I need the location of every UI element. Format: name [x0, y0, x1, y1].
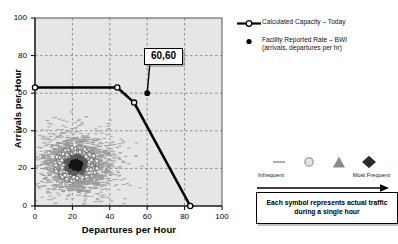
x-tick-label-20: 20 — [62, 212, 82, 221]
cloud-point — [54, 163, 58, 167]
chart-legend: Calculated Capacity – Today Facility Rep… — [236, 18, 390, 61]
x-tick-label-80: 80 — [175, 212, 195, 221]
cloud-point — [61, 152, 65, 156]
frequency-note-line2: during a single hour — [294, 208, 359, 215]
legend-item-facility-reported-rate: Facility Reported Rate – BWI (arrivals, … — [236, 36, 390, 53]
legend-sublabel-facility-reported-rate: (arrivals, departures per hr) — [262, 44, 347, 52]
legend-line-open-circle-icon — [236, 18, 262, 28]
x-tick-label-0: 0 — [25, 212, 45, 221]
frequency-symbol-row — [256, 152, 392, 172]
legend-filled-dot-icon — [236, 36, 262, 46]
frequency-label-infrequent: Infrequent — [258, 172, 284, 178]
cloud-point — [65, 177, 69, 181]
frequency-note-box: Each symbol represents actual traffic du… — [256, 192, 398, 224]
cloud-point — [83, 147, 87, 151]
cloud-point — [81, 176, 85, 180]
cloud-point — [88, 171, 92, 175]
cloud-point — [70, 146, 74, 150]
cloud-point — [78, 150, 82, 154]
y-tick-label-40: 40 — [7, 126, 27, 135]
x-tick-label-60: 60 — [137, 212, 157, 221]
frequency-scale-labels: Infrequent Most Frequent — [256, 172, 392, 178]
capacity-point-marker-0 — [32, 85, 37, 90]
cloud-point — [55, 155, 59, 159]
legend-label-calculated-capacity: Calculated Capacity – Today — [262, 18, 345, 26]
y-axis-title: Arrivals per Hour — [12, 61, 23, 157]
x-tick-label-40: 40 — [100, 212, 120, 221]
capacity-point-marker-3 — [188, 203, 193, 208]
cloud-point — [60, 159, 64, 163]
capacity-point-marker-1 — [115, 85, 120, 90]
cloud-point — [65, 153, 69, 157]
frequency-label-most-frequent: Most Frequent — [353, 172, 390, 178]
cloud-point — [95, 159, 99, 163]
cloud-point — [84, 155, 88, 159]
triangle-symbol-icon — [331, 155, 347, 169]
cloud-point — [60, 166, 64, 170]
y-tick-label-80: 80 — [7, 51, 27, 60]
cloud-point — [92, 154, 96, 158]
cloud-point — [85, 175, 89, 179]
x-axis-title: Departures per Hour — [35, 224, 223, 235]
y-tick-label-60: 60 — [7, 88, 27, 97]
cloud-point — [63, 173, 67, 177]
cloud-point — [54, 170, 58, 174]
y-tick-label-0: 0 — [7, 201, 27, 210]
y-tick-label-20: 20 — [7, 163, 27, 172]
dash-symbol-icon — [271, 155, 287, 169]
circle-symbol-icon — [301, 155, 317, 169]
frequency-arrow-icon — [256, 184, 392, 192]
frequency-scale-legend: Infrequent Most Frequent — [256, 152, 392, 196]
legend-label-facility-reported-rate: Facility Reported Rate – BWI — [262, 36, 347, 43]
legend-item-calculated-capacity: Calculated Capacity – Today — [236, 18, 390, 28]
diamond-symbol-icon — [361, 155, 377, 169]
x-tick-label-100: 100 — [212, 212, 232, 221]
cloud-point — [95, 167, 99, 171]
cloud-point — [89, 158, 93, 162]
y-tick-label-100: 100 — [7, 13, 27, 22]
frequency-note-line1: Each symbol represents actual traffic — [267, 199, 388, 206]
cloud-point — [75, 176, 79, 180]
callout-60-60: 60,60 — [144, 48, 183, 65]
capacity-point-marker-2 — [132, 100, 137, 105]
